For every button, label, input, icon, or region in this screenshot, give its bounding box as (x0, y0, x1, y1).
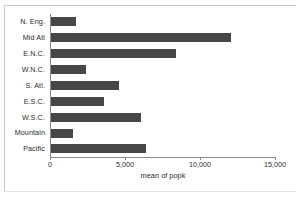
bar-series: N. Eng.Mid AtlE.N.C.W.N.C.S. Atl.E.S.C.W… (0, 14, 304, 157)
bar-category-label: W.S.C. (0, 114, 45, 121)
bar-track (51, 109, 141, 125)
bar-row: S. Atl. (0, 78, 304, 94)
x-axis-title: mean of popk (50, 172, 276, 179)
bar-row: W.S.C. (0, 109, 304, 125)
x-tick-label: 0 (48, 161, 52, 168)
bar-row: W.N.C. (0, 62, 304, 78)
x-tick-label: 10,000 (189, 161, 211, 168)
bar-track (51, 62, 86, 78)
bar-row: Mountain (0, 125, 304, 141)
bar-track (51, 14, 76, 30)
x-tick-label: 15,000 (264, 161, 286, 168)
bar-track (51, 78, 119, 94)
bar-row: N. Eng. (0, 14, 304, 30)
bar (51, 97, 104, 106)
bar-track (51, 125, 73, 141)
bar (51, 144, 146, 153)
bar-category-label: Mountain (0, 129, 45, 136)
bar-track (51, 30, 231, 46)
bar-category-label: E.S.C. (0, 98, 45, 105)
bar-category-label: N. Eng. (0, 18, 45, 25)
bar (51, 33, 231, 42)
bar (51, 129, 73, 138)
bar (51, 113, 141, 122)
plot-area: N. Eng.Mid AtlE.N.C.W.N.C.S. Atl.E.S.C.W… (0, 0, 304, 199)
bar-category-label: W.N.C. (0, 66, 45, 73)
bar (51, 65, 86, 74)
bar-row: E.S.C. (0, 93, 304, 109)
bar-chart-figure: N. Eng.Mid AtlE.N.C.W.N.C.S. Atl.E.S.C.W… (0, 0, 304, 199)
bar-category-label: S. Atl. (0, 82, 45, 89)
bar-category-label: Mid Atl (0, 34, 45, 41)
bar (51, 17, 76, 26)
bar-track (51, 46, 176, 62)
bar (51, 49, 176, 58)
bar (51, 81, 119, 90)
bar-row: Pacific (0, 141, 304, 157)
bar-category-label: Pacific (0, 145, 45, 152)
bar-row: E.N.C. (0, 46, 304, 62)
bar-category-label: E.N.C. (0, 50, 45, 57)
bar-track (51, 93, 104, 109)
bar-row: Mid Atl (0, 30, 304, 46)
x-tick-label: 5,000 (116, 161, 134, 168)
bar-track (51, 141, 146, 157)
